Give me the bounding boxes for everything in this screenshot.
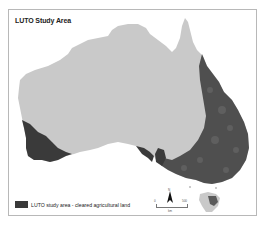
island [189,186,191,188]
scale-end-label: 500 [182,199,187,203]
scale-unit-label: km [168,209,172,213]
north-arrow-icon [167,190,173,204]
legend-swatch-study-area [15,201,28,208]
scale-bar [156,204,188,208]
australia-map [0,0,268,229]
legend: LUTO study area - cleared agricultural l… [15,201,130,208]
map-title: LUTO Study Area [15,17,71,24]
island [215,187,217,189]
scale-start-label: 0 [154,199,156,203]
legend-label: LUTO study area - cleared agricultural l… [31,202,130,208]
